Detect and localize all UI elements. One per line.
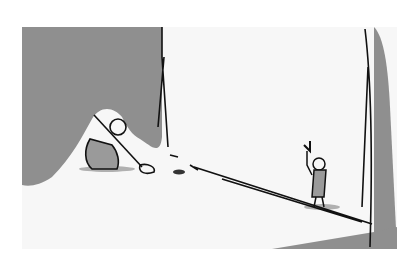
storyboard-frame — [22, 27, 397, 249]
sketch-illustration — [22, 27, 397, 249]
floor-pole — [194, 167, 372, 224]
right-pillar-line — [362, 29, 371, 247]
torch-bearer-figure — [304, 141, 326, 207]
right-wall-shadow — [374, 27, 397, 249]
